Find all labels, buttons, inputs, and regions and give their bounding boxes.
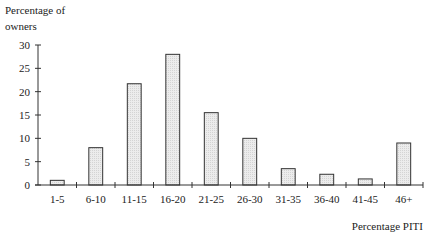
bar-36-40 (320, 174, 334, 185)
x-tick-label: 1-5 (50, 193, 65, 205)
y-axis-title-line-1: Percentage of (5, 4, 65, 16)
bar-11-15 (127, 84, 141, 185)
bar-chart: Percentage of owners 051015202530 1-56-1… (0, 0, 443, 237)
x-tick-label: 46+ (395, 193, 412, 205)
y-tick-label: 5 (25, 156, 31, 168)
y-tick-label: 15 (19, 109, 31, 121)
x-tick-label: 31-35 (275, 193, 301, 205)
y-tick-label: 10 (19, 132, 31, 144)
y-axis-title-line-2: owners (5, 20, 37, 32)
x-tick-label: 26-30 (237, 193, 263, 205)
y-tick-label: 20 (19, 86, 31, 98)
bar-1-5 (50, 180, 64, 185)
bar-16-20 (166, 54, 180, 185)
bars (50, 54, 410, 185)
x-tick-label: 11-15 (122, 193, 148, 205)
y-tick-label: 0 (25, 179, 31, 191)
x-axis-title: Percentage PITI (352, 220, 423, 232)
x-tick-label: 36-40 (314, 193, 340, 205)
x-tick-label: 41-45 (352, 193, 378, 205)
bar-31-35 (281, 169, 295, 185)
bar-26-30 (243, 138, 257, 185)
bar-6-10 (89, 148, 103, 185)
y-tick-label: 30 (19, 39, 31, 51)
x-tick-label: 21-25 (198, 193, 224, 205)
bar-21-25 (204, 113, 218, 185)
y-tick-label: 25 (19, 62, 31, 74)
x-tick-label: 6-10 (86, 193, 107, 205)
bar-41-45 (358, 179, 372, 185)
x-tick-label: 16-20 (160, 193, 186, 205)
bar-46+ (397, 143, 411, 185)
